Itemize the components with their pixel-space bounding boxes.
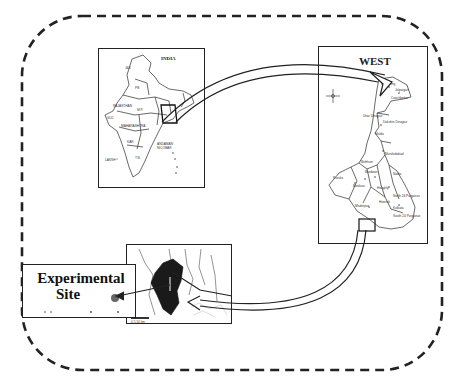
site-pointer-line	[118, 285, 170, 296]
location-map-figure: INDIA J&K PB RAJASTHAN GUJ M.	[0, 0, 456, 387]
connector-arrows	[0, 0, 456, 387]
